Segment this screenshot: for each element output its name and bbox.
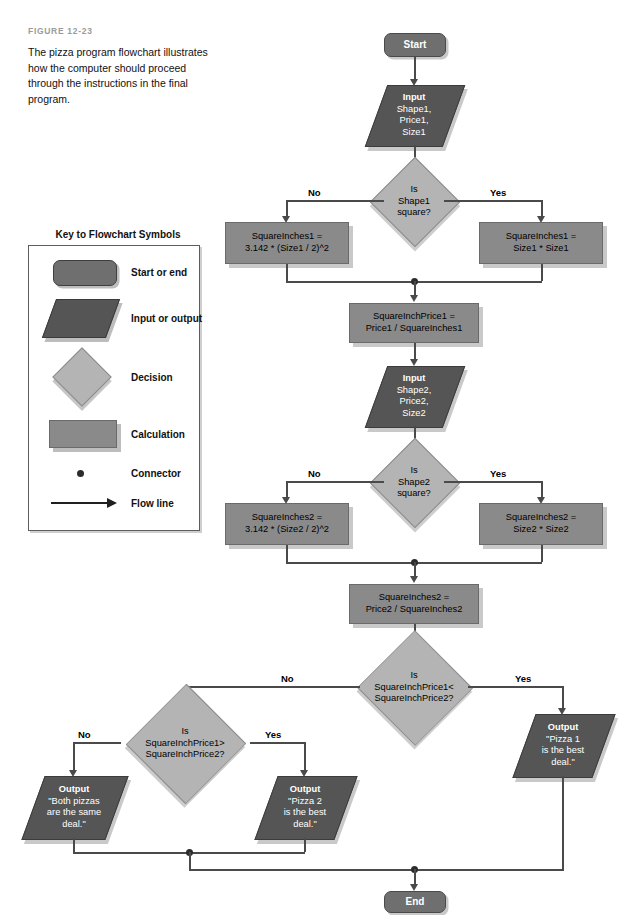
parallelogram-icon: [43, 292, 123, 344]
diamond-shape: [370, 438, 461, 529]
line-merge3-down: [189, 852, 191, 870]
node-input-2[interactable]: Input Shape2, Price2, Size2: [376, 366, 452, 426]
key-item-label: Calculation: [131, 429, 185, 440]
node-calc-squareinches2-square[interactable]: SquareInches2 = Size2 * Size2: [479, 503, 603, 545]
key-item-connector: Connector: [29, 458, 199, 488]
key-item-label: Flow line: [131, 498, 174, 509]
node-decision-shape1-square[interactable]: Is Shape1 square?: [383, 170, 445, 232]
node-output-same-deal[interactable]: Output "Both pizzas are the same deal.": [33, 776, 115, 838]
edge-label-decision3-yes: Yes: [515, 673, 531, 684]
key-item-flow-line: Flow line: [29, 488, 199, 518]
node-calc-squareinchprice2[interactable]: SquareInches2 = Price2 / SquareInches2: [349, 584, 479, 624]
terminator-icon: [43, 252, 123, 292]
node-calc2-yes-label: SquareInches2 = Size2 * Size2: [480, 512, 602, 535]
node-decision-shape2-square[interactable]: Is Shape2 square?: [383, 451, 445, 513]
diamond-shape: [126, 684, 246, 804]
edge-label-decision4-yes: Yes: [265, 729, 281, 740]
key-title: Key to Flowchart Symbols: [30, 229, 206, 240]
key-item-calculation: Calculation: [29, 410, 199, 458]
line-decision1-no: [286, 200, 384, 202]
node-calc1-yes-label: SquareInches1 = Size1 * Size1: [480, 231, 602, 254]
node-output-pizza2[interactable]: Output "Pizza 2 is the best deal.": [266, 776, 344, 838]
line-decision1-yes: [444, 200, 542, 202]
flowchart-figure: FIGURE 12-23 The pizza program flowchart…: [0, 0, 629, 915]
parallelogram-shape: [365, 85, 466, 147]
parallelogram-shape: [365, 366, 466, 428]
arrow-to-input2: [410, 359, 418, 366]
key-to-flowchart-symbols: Start or end Input or output Decision Ca…: [28, 245, 200, 531]
node-calc-squareinches1-square[interactable]: SquareInches1 = Size1 * Size1: [479, 222, 603, 264]
line-output-same-down: [73, 838, 75, 852]
node-calc-squareinches1-circle[interactable]: SquareInches1 = 3.142 * (Size1 / 2)^2: [225, 222, 349, 264]
line-decision4-no-down: [73, 742, 75, 772]
diamond-shape: [370, 157, 461, 248]
node-decision-price1-less-than-price2[interactable]: Is SquareInchPrice1< SquareInchPrice2?: [358, 648, 470, 726]
figure-caption-block: FIGURE 12-23 The pizza program flowchart…: [28, 26, 218, 107]
node-decision-price1-greater-than-price2[interactable]: Is SquareInchPrice1> SquareInchPrice2?: [118, 705, 252, 781]
line-output-pizza1-down: [562, 776, 564, 870]
node-calc-squareinchprice1[interactable]: SquareInchPrice1 = Price1 / SquareInches…: [349, 303, 479, 343]
node-calc-price1-label: SquareInchPrice1 = Price1 / SquareInches…: [350, 311, 478, 334]
line-decision4-yes-down: [304, 742, 306, 772]
line-decision3-yes-down: [562, 686, 564, 710]
arrow-to-calc-price1: [410, 295, 418, 302]
node-start[interactable]: Start: [384, 33, 446, 57]
key-item-decision: Decision: [29, 346, 199, 408]
node-calc2-no-label: SquareInches2 = 3.142 * (Size2 / 2)^2: [226, 512, 348, 535]
line-calc1-yes-down: [541, 264, 543, 281]
figure-caption-text: The pizza program flowchart illustrates …: [28, 45, 218, 107]
line-decision4-yes: [250, 742, 306, 744]
parallelogram-shape: [254, 776, 357, 840]
line-calc2-yes-down: [541, 545, 543, 562]
line-decision3-yes: [468, 686, 564, 688]
flow-line-arrow-icon: [43, 488, 123, 518]
line-merge-4: [189, 869, 564, 871]
edge-label-decision4-no: No: [78, 729, 91, 740]
key-item-label: Start or end: [131, 267, 187, 278]
diamond-icon: [43, 346, 123, 408]
connector-dot-icon: [43, 458, 123, 488]
edge-label-decision1-no: No: [308, 187, 321, 198]
key-item-label: Connector: [131, 468, 181, 479]
line-decision4-no: [73, 742, 121, 744]
node-input-1[interactable]: Input Shape1, Price1, Size1: [376, 85, 452, 145]
key-item-label: Decision: [131, 372, 173, 383]
diamond-shape: [357, 630, 473, 746]
edge-label-decision1-yes: Yes: [490, 187, 506, 198]
node-end-label: End: [385, 896, 445, 908]
arrow-to-calc-price2: [410, 576, 418, 583]
line-calc2-no-down: [286, 545, 288, 562]
rectangle-icon: [43, 410, 123, 458]
edge-label-decision2-no: No: [308, 468, 321, 479]
line-start-to-input1: [414, 57, 416, 81]
arrow-to-end: [410, 884, 418, 891]
line-decision3-no: [186, 686, 360, 688]
node-calc1-no-label: SquareInches1 = 3.142 * (Size1 / 2)^2: [226, 231, 348, 254]
line-output-pizza2-down: [304, 838, 306, 852]
node-output-pizza1[interactable]: Output "Pizza 1 is the best deal.": [524, 714, 602, 776]
line-calc1-no-down: [286, 264, 288, 281]
node-calc-price2-label: SquareInches2 = Price2 / SquareInches2: [350, 592, 478, 615]
line-decision2-yes: [444, 481, 542, 483]
node-calc-squareinches2-circle[interactable]: SquareInches2 = 3.142 * (Size2 / 2)^2: [225, 503, 349, 545]
key-item-label: Input or output: [131, 313, 202, 324]
key-item-start-or-end: Start or end: [29, 252, 199, 292]
node-end[interactable]: End: [384, 891, 446, 913]
parallelogram-shape: [21, 776, 128, 840]
line-decision2-no: [286, 481, 384, 483]
figure-number: FIGURE 12-23: [28, 26, 218, 36]
key-item-input-or-output: Input or output: [29, 292, 199, 344]
edge-label-decision3-no: No: [281, 673, 294, 684]
node-start-label: Start: [385, 39, 445, 51]
parallelogram-shape: [512, 714, 615, 778]
edge-label-decision2-yes: Yes: [490, 468, 506, 479]
